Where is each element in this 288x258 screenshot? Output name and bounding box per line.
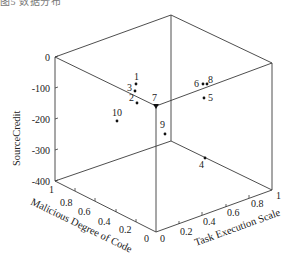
x-tick-label: 0 (160, 233, 165, 244)
cut-off-caption: 图5 数据分布 (0, 0, 61, 8)
z-axis: 0 -100 -200 -300 -400 SourceCredit (11, 52, 58, 187)
point-label: 4 (199, 159, 204, 170)
data-point (135, 83, 138, 86)
y-tick-label: 0.4 (98, 216, 111, 227)
point-label: 7 (152, 92, 157, 103)
y-tick-label: 0 (144, 233, 149, 244)
point-label: 2 (129, 92, 134, 103)
point-label: 8 (208, 74, 213, 85)
data-point (204, 157, 207, 160)
x-tick-label: 0.4 (203, 216, 216, 227)
z-axis-label: SourceCredit (11, 111, 22, 166)
z-tick-label: 0 (45, 52, 50, 63)
data-point (153, 104, 159, 109)
z-tick-label: -300 (32, 145, 50, 156)
point-label: 10 (112, 107, 122, 118)
y-tick-label: 0.6 (78, 206, 91, 217)
point-label: 5 (208, 92, 213, 103)
point-label: 6 (194, 78, 199, 89)
x-tick-label: 0.6 (227, 207, 240, 218)
scatter-3d-chart: 0 -100 -200 -300 -400 SourceCredit 1 0.8… (0, 0, 288, 258)
data-point (164, 133, 167, 136)
data-points: 1 3 2 10 6 8 5 7 9 4 (112, 71, 213, 170)
y-tick-label: 0.8 (60, 197, 73, 208)
y-tick-label: 0.2 (119, 224, 132, 235)
z-tick-label: -400 (32, 176, 50, 187)
data-point (202, 83, 205, 86)
data-point (134, 90, 137, 93)
z-tick-label: -100 (32, 83, 50, 94)
x-tick-label: 1 (276, 190, 281, 201)
y-tick-label: 1 (49, 184, 54, 195)
x-tick-label: 0.2 (180, 226, 193, 237)
z-tick-label: -200 (32, 114, 50, 125)
data-point (136, 102, 139, 105)
x-axis: 0 0.2 0.4 0.6 0.8 1 Task Execution Scale (160, 190, 282, 248)
point-label: 1 (134, 71, 139, 82)
data-point (203, 97, 206, 100)
x-tick-label: 0.8 (251, 198, 264, 209)
data-point (116, 120, 119, 123)
point-label: 9 (160, 119, 165, 130)
